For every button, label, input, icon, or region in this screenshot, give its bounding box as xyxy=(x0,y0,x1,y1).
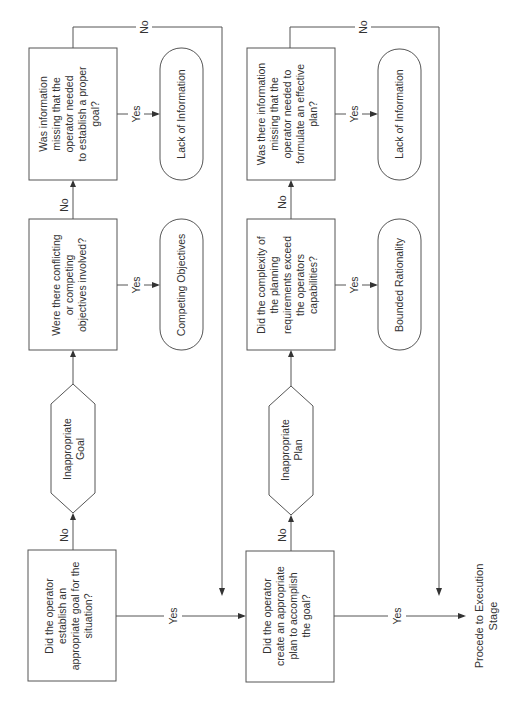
edge-label-yes: Yes xyxy=(348,276,360,293)
svg-text:operator needed: operator needed xyxy=(63,75,75,152)
edge-label-no: No xyxy=(58,198,70,212)
svg-text:Plan: Plan xyxy=(292,439,304,460)
svg-text:capabilities?: capabilities? xyxy=(307,256,319,314)
svg-text:Did the operator: Did the operator xyxy=(43,578,55,654)
svg-text:the goal?: the goal? xyxy=(300,594,312,637)
svg-text:Did the operator: Did the operator xyxy=(261,578,273,654)
flowchart-canvas: No Was information missing that the oper… xyxy=(0,0,518,706)
svg-text:appropriate goal for the: appropriate goal for the xyxy=(69,562,81,671)
svg-text:Stage: Stage xyxy=(487,602,499,631)
svg-text:missing that the: missing that the xyxy=(268,77,280,151)
terminal-lack-of-information-goal-label: Lack of Information xyxy=(175,69,187,158)
svg-text:missing that the: missing that the xyxy=(50,77,62,151)
edge-label-yes: Yes xyxy=(130,105,142,122)
svg-text:Were there conflicting: Were there conflicting xyxy=(50,234,62,336)
svg-text:requirements exceed: requirements exceed xyxy=(281,236,293,334)
svg-text:formulate an effective: formulate an effective xyxy=(294,64,306,164)
svg-text:Goal: Goal xyxy=(74,438,86,460)
state-inappropriate-goal xyxy=(51,384,95,513)
terminal-lack-of-information-plan-label: Lack of Information xyxy=(393,69,405,158)
svg-text:goal?: goal? xyxy=(89,101,101,127)
flowchart: No Was information missing that the oper… xyxy=(0,0,518,706)
svg-text:or competing: or competing xyxy=(63,254,75,315)
edge-label-yes: Yes xyxy=(167,607,179,624)
svg-text:Was information: Was information xyxy=(37,76,49,152)
svg-text:Was there information: Was there information xyxy=(255,63,267,165)
svg-text:Inappropriate: Inappropriate xyxy=(279,419,291,481)
svg-text:objectives involved?: objectives involved? xyxy=(76,238,88,332)
svg-text:the planning: the planning xyxy=(268,256,280,313)
svg-text:situation?: situation? xyxy=(82,593,94,638)
edge-label-no: No xyxy=(276,195,288,209)
svg-text:establish an: establish an xyxy=(56,588,68,644)
terminal-competing-objectives-label: Competing Objectives xyxy=(175,234,187,337)
svg-text:the operators: the operators xyxy=(294,254,306,316)
svg-text:to establish a proper: to establish a proper xyxy=(76,66,88,162)
svg-text:Did the complexity of: Did the complexity of xyxy=(255,236,267,334)
edge-label-yes: Yes xyxy=(130,276,142,293)
terminal-bounded-rationality-label: Bounded Rationality xyxy=(393,237,405,332)
edge-label-yes: Yes xyxy=(391,607,403,624)
svg-text:plan to accomplish: plan to accomplish xyxy=(287,572,299,659)
edge-label-no: No xyxy=(138,20,150,34)
svg-text:Inappropriate: Inappropriate xyxy=(61,418,73,480)
exit-procede-to-execution: Procede to Execution Stage xyxy=(473,564,499,669)
arrow-head-icon xyxy=(219,588,225,596)
svg-text:plan?: plan? xyxy=(307,101,319,127)
state-inappropriate-plan xyxy=(269,386,313,515)
edge-label-yes: Yes xyxy=(348,105,360,122)
edge-label-no: No xyxy=(357,20,369,34)
svg-text:operator needed to: operator needed to xyxy=(281,69,293,158)
edge-label-no: No xyxy=(276,528,288,542)
svg-text:create an appropriate: create an appropriate xyxy=(274,566,286,666)
svg-text:Procede to Execution: Procede to Execution xyxy=(473,564,485,669)
edge-label-no: No xyxy=(58,528,70,542)
